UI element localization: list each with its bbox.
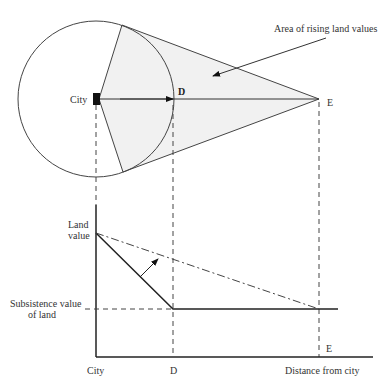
y-axis-label-line1: Land [68,219,89,230]
x-tick-city: City [87,365,104,376]
y-axis-label-line2: value [68,230,90,241]
point-d-label: D [178,86,185,97]
x-tick-d: D [170,365,177,376]
point-e-label: E [327,97,333,108]
subsistence-label-line2: of land [28,309,56,320]
city-marker [93,93,100,105]
land-value-diagram: City D E Area of rising land values Land… [0,0,385,381]
x-tick-e: E [326,343,332,354]
original-gradient-line [96,233,338,309]
raised-gradient-line [96,233,319,309]
x-axis-label: Distance from city [285,365,359,376]
rising-area-annotation: Area of rising land values [274,23,377,34]
rotation-arrow [140,259,158,277]
annotation-arrow [213,38,326,76]
subsistence-label-line1: Subsistence value [10,298,82,309]
city-label: City [70,94,87,105]
upper-panel: City D E Area of rising land values [18,21,377,177]
